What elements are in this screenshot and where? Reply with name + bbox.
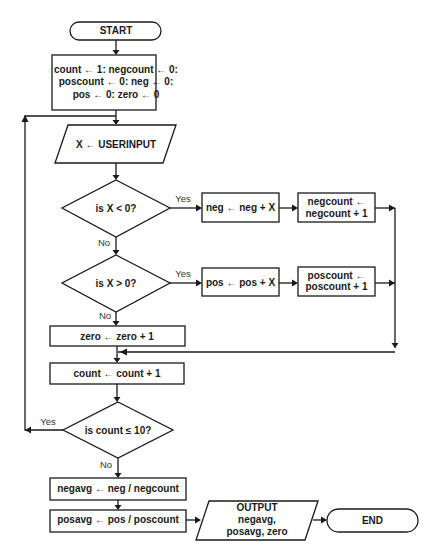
arrow-head: [196, 205, 202, 212]
arrow-head: [25, 427, 31, 434]
input-label: X ← USERINPUT: [76, 139, 156, 150]
output-line-3: posavg, zero: [226, 526, 287, 537]
init-process: count ← 1: negcount ← 0: poscount ← 0: n…: [52, 55, 178, 110]
arrow-head: [195, 517, 201, 524]
decision-positive: is X > 0?: [62, 255, 170, 312]
arrow-head: [114, 358, 121, 363]
edge-label-yes: Yes: [175, 193, 191, 204]
start-label: START: [100, 25, 133, 36]
arrow-head: [120, 349, 127, 356]
arrow-head: [113, 50, 120, 55]
neg-count-line-2: negcount + 1: [306, 208, 368, 219]
pos-sum-label: pos ← pos + X: [206, 277, 276, 288]
edge-label-yes: Yes: [175, 268, 191, 279]
init-line-3: pos ← 0: zero ← 0: [73, 89, 160, 100]
pos-count-process: poscount ← poscount + 1: [298, 267, 375, 296]
count-increment-label: count ← count + 1: [74, 368, 161, 379]
arrow-head: [114, 397, 121, 402]
end-label: END: [362, 515, 383, 526]
neg-sum-process: neg ← neg + X: [202, 193, 279, 222]
arrow-head: [389, 205, 395, 212]
arrow-head: [292, 280, 298, 287]
negavg-label: negavg ← neg / negcount: [57, 483, 179, 494]
edge-label-yes: Yes: [40, 416, 56, 427]
end-node: END: [327, 509, 418, 532]
arrow-head: [113, 321, 120, 326]
zero-count-process: zero ← zero + 1: [50, 326, 185, 346]
decision-negative-label: is X < 0?: [96, 203, 137, 214]
decision-loop-label: is count ≤ 10?: [85, 425, 152, 436]
arrow-head: [113, 175, 120, 180]
init-line-2: poscount ← 0: neg ← 0:: [59, 76, 173, 87]
neg-count-line-1: negcount ←: [308, 196, 366, 207]
posavg-process: posavg ← pos / poscount: [50, 510, 186, 532]
arrow-head: [115, 505, 122, 510]
decision-negative: is X < 0?: [62, 180, 170, 237]
arrow-head: [196, 280, 202, 287]
pos-sum-process: pos ← pos + X: [202, 268, 279, 296]
neg-sum-label: neg ← neg + X: [206, 202, 276, 213]
input-io: X ← USERINPUT: [55, 125, 176, 163]
init-line-1: count ← 1: negcount ← 0:: [54, 64, 178, 75]
neg-count-process: negcount ← negcount + 1: [298, 193, 375, 222]
count-increment-process: count ← count + 1: [50, 363, 184, 384]
arrow-head: [292, 205, 298, 212]
output-line-1: OUTPUT: [236, 502, 277, 513]
arrow-head: [115, 473, 122, 478]
arrow-head: [389, 280, 395, 287]
arrow-head: [113, 120, 120, 125]
decision-positive-label: is X > 0?: [96, 278, 137, 289]
arrow-head: [113, 250, 120, 255]
negavg-process: negavg ← neg / negcount: [50, 478, 186, 500]
decision-loop: is count ≤ 10?: [63, 402, 173, 458]
edge-label-no: No: [99, 310, 111, 321]
output-io: OUTPUT negavg, posavg, zero: [196, 501, 318, 540]
posavg-label: posavg ← pos / poscount: [57, 514, 179, 525]
output-line-2: negavg,: [238, 514, 276, 525]
edge-label-no: No: [100, 459, 112, 470]
pos-count-line-2: poscount + 1: [306, 281, 368, 292]
pos-count-line-1: poscount ←: [308, 270, 366, 281]
edge-label-no: No: [98, 237, 110, 248]
arrow-head: [321, 517, 327, 524]
zero-count-label: zero ← zero + 1: [80, 331, 154, 342]
start-node: START: [70, 22, 161, 40]
flowchart: START count ← 1: negcount ← 0: poscount …: [0, 0, 440, 553]
arrow-head: [392, 343, 399, 348]
